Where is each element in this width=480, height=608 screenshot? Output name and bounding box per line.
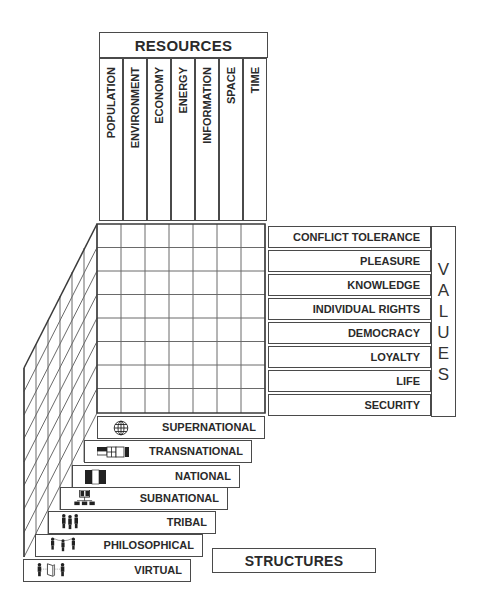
values-letter: U bbox=[437, 322, 449, 343]
resource-label: TIME bbox=[247, 67, 263, 93]
value-label: LOYALTY bbox=[370, 351, 420, 363]
value-label: KNOWLEDGE bbox=[347, 279, 420, 291]
value-row-pleasure: PLEASURE bbox=[268, 250, 431, 272]
values-letter: V bbox=[438, 259, 449, 280]
resource-column-information: INFORMATION bbox=[195, 58, 219, 221]
resource-label: ENVIRONMENT bbox=[127, 67, 143, 148]
value-row-knowledge: KNOWLEDGE bbox=[268, 274, 431, 296]
values-header: V A L U E S bbox=[431, 226, 456, 417]
resource-label: POPULATION bbox=[103, 67, 119, 138]
value-label: CONFLICT TOLERANCE bbox=[293, 231, 420, 243]
value-label: INDIVIDUAL RIGHTS bbox=[313, 303, 420, 315]
structure-label: SUPERNATIONAL bbox=[162, 421, 256, 433]
resource-column-time: TIME bbox=[243, 58, 267, 221]
resource-column-space: SPACE bbox=[219, 58, 243, 221]
structure-virtual: VIRTUAL bbox=[23, 559, 191, 582]
flag-icon bbox=[85, 469, 109, 485]
structure-label: SUBNATIONAL bbox=[140, 492, 219, 504]
value-label: PLEASURE bbox=[360, 255, 420, 267]
linked-flags-icon bbox=[97, 445, 133, 461]
values-letter: S bbox=[438, 364, 449, 385]
structure-label: PHILOSOPHICAL bbox=[104, 539, 194, 551]
structures-title: STRUCTURES bbox=[245, 553, 344, 569]
value-row-democracy: DEMOCRACY bbox=[268, 322, 431, 344]
org-chart-icon bbox=[73, 490, 97, 506]
structure-label: VIRTUAL bbox=[134, 564, 182, 576]
resource-column-energy: ENERGY bbox=[171, 58, 195, 221]
resources-title: RESOURCES bbox=[135, 37, 233, 54]
group-of-people-icon bbox=[59, 514, 81, 530]
structure-tribal: TRIBAL bbox=[48, 511, 216, 534]
resource-column-population: POPULATION bbox=[99, 58, 123, 221]
values-letter: L bbox=[439, 301, 448, 322]
resource-column-environment: ENVIRONMENT bbox=[123, 58, 147, 221]
structures-header: STRUCTURES bbox=[212, 548, 376, 573]
resource-label: ECONOMY bbox=[151, 67, 167, 124]
value-row-security: SECURITY bbox=[268, 394, 431, 416]
people-via-device-icon bbox=[34, 562, 68, 578]
value-row-life: LIFE bbox=[268, 370, 431, 392]
structure-transnational: TRANSNATIONAL bbox=[84, 440, 252, 463]
structure-label: TRANSNATIONAL bbox=[149, 445, 243, 457]
structure-label: TRIBAL bbox=[167, 516, 207, 528]
value-row-conflict-tolerance: CONFLICT TOLERANCE bbox=[268, 226, 431, 248]
values-letter: A bbox=[438, 280, 449, 301]
structure-subnational: SUBNATIONAL bbox=[60, 487, 228, 510]
value-label: SECURITY bbox=[364, 399, 420, 411]
value-row-loyalty: LOYALTY bbox=[268, 346, 431, 368]
globe-icon bbox=[112, 420, 130, 436]
resource-label: ENERGY bbox=[175, 67, 191, 113]
resource-label: INFORMATION bbox=[199, 67, 215, 144]
values-letter: E bbox=[438, 343, 449, 364]
value-row-individual-rights: INDIVIDUAL RIGHTS bbox=[268, 298, 431, 320]
structure-supernational: SUPERNATIONAL bbox=[97, 416, 265, 439]
resource-column-economy: ECONOMY bbox=[147, 58, 171, 221]
structure-national: NATIONAL bbox=[72, 465, 240, 488]
value-label: LIFE bbox=[396, 375, 420, 387]
resources-header: RESOURCES bbox=[99, 32, 268, 58]
value-label: DEMOCRACY bbox=[348, 327, 420, 339]
resource-label: SPACE bbox=[223, 67, 239, 104]
connected-people-icon bbox=[46, 536, 80, 552]
structure-label: NATIONAL bbox=[175, 470, 231, 482]
structure-philosophical: PHILOSOPHICAL bbox=[35, 534, 203, 557]
